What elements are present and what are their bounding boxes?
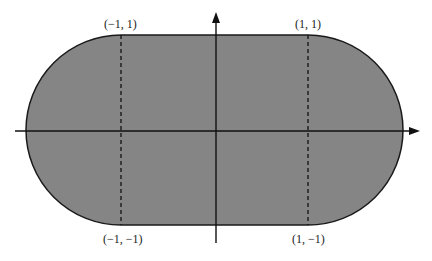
y-axis-arrow-icon — [212, 12, 220, 23]
label-top-right: (1, 1) — [295, 17, 321, 32]
label-bottom-right: (1, −1) — [292, 232, 325, 247]
label-top-left: (−1, 1) — [104, 17, 137, 32]
x-axis-arrow-icon — [409, 127, 420, 135]
label-bottom-left: (−1, −1) — [103, 232, 143, 247]
stadium-shape — [26, 35, 403, 225]
stadium-diagram — [0, 0, 432, 261]
